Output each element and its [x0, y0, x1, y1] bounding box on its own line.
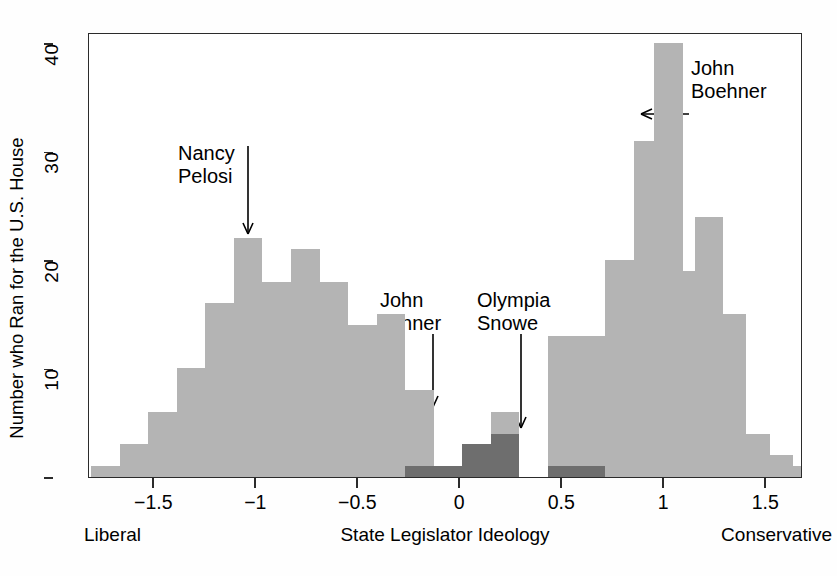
histogram-bar — [434, 466, 463, 477]
x-axis-title: State Legislator Ideology — [340, 524, 549, 546]
histogram-bar — [491, 434, 520, 477]
annotation-arrow-nancy-pelosi — [240, 138, 256, 242]
histogram-bar — [177, 368, 206, 477]
histogram-bar — [577, 336, 606, 477]
histogram-bar — [577, 466, 606, 477]
x-axis: −1.5−1−0.500.511.5 State Legislator Ideo… — [88, 478, 802, 576]
histogram-bar — [148, 412, 177, 477]
x-tick-mark — [152, 478, 154, 488]
histogram-bar — [348, 325, 377, 477]
histogram-bar — [377, 314, 406, 477]
histogram-bar — [548, 466, 577, 477]
histogram-bar — [405, 466, 434, 477]
y-tick-mark — [44, 477, 53, 479]
x-axis-left-label: Liberal — [84, 524, 141, 546]
y-tick-label: 40 — [42, 43, 61, 65]
histogram-bar — [205, 303, 234, 477]
histogram-bar — [91, 466, 120, 477]
histogram-bar — [405, 390, 434, 477]
x-tick-mark — [764, 478, 766, 488]
x-tick-label: 1.5 — [752, 491, 779, 514]
histogram-bar — [781, 466, 802, 477]
y-tick-label: 30 — [42, 152, 61, 174]
y-axis: Number who Ran for the U.S. House 102030… — [0, 0, 88, 576]
x-tick-label: −1.5 — [134, 491, 173, 514]
histogram-bar — [291, 249, 320, 477]
x-axis-right-label: Conservative — [721, 524, 832, 546]
x-tick-mark — [356, 478, 358, 488]
histogram-bar — [605, 260, 634, 477]
histogram-bar — [548, 336, 577, 477]
annotation-label-nancy-pelosi: Nancy Pelosi — [178, 142, 235, 188]
x-tick-label: 1 — [658, 491, 669, 514]
x-tick-mark — [560, 478, 562, 488]
x-tick-mark — [458, 478, 460, 488]
histogram-bar — [320, 282, 349, 477]
x-tick-mark — [254, 478, 256, 488]
histogram-bar — [262, 282, 291, 477]
plot-area: Nancy Pelosi John Tanner Olympia Snowe J… — [88, 33, 802, 478]
y-axis-title: Number who Ran for the U.S. House — [6, 137, 28, 438]
histogram-bar — [234, 238, 263, 477]
histogram-bar — [120, 444, 149, 477]
x-tick-label: −0.5 — [338, 491, 377, 514]
x-tick-mark — [662, 478, 664, 488]
x-tick-label: 0.5 — [548, 491, 575, 514]
y-tick-label: 20 — [42, 260, 61, 282]
x-tick-label: −1 — [244, 491, 266, 514]
y-tick-label: 10 — [42, 369, 61, 391]
histogram-figure: Number who Ran for the U.S. House 102030… — [0, 0, 837, 576]
annotation-label-john-boehner: John Boehner — [691, 57, 767, 103]
x-tick-label: 0 — [454, 491, 465, 514]
histogram-bar — [462, 444, 491, 477]
